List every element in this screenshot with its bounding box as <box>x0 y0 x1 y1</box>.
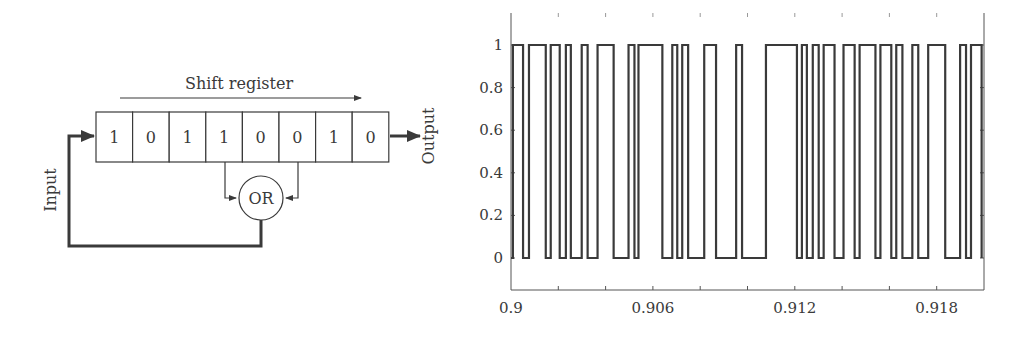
register-cell-value: 1 <box>329 128 339 147</box>
register-cell-3: 1 <box>169 112 206 162</box>
or-gate-label: OR <box>248 189 274 208</box>
figure: Shift register 10110010 Output OR Input … <box>0 0 1028 337</box>
y-tick-label: 0.6 <box>479 121 503 139</box>
output-waveform-chart: 0.90.9060.9120.91800.20.40.60.81 <box>479 13 984 317</box>
output-label: Output <box>419 107 438 164</box>
register-cell-value: 0 <box>146 128 156 147</box>
shift-register-title: Shift register <box>185 74 293 93</box>
or-gate: OR <box>239 176 283 220</box>
register-cell-value: 0 <box>292 128 302 147</box>
register-cell-value: 0 <box>365 128 375 147</box>
y-tick-label: 0 <box>493 249 503 267</box>
tap-line-cell-6 <box>286 162 298 198</box>
shift-register-diagram: Shift register 10110010 Output OR Input <box>41 74 438 246</box>
y-tick-label: 0.4 <box>479 164 503 182</box>
y-tick-label: 0.2 <box>479 206 503 224</box>
x-tick-label: 0.912 <box>773 299 816 317</box>
tap-line-cell-4 <box>225 162 236 198</box>
x-tick-label: 0.9 <box>499 299 523 317</box>
register-cell-4: 1 <box>206 112 243 162</box>
register-cell-1: 1 <box>96 112 133 162</box>
x-tick-label: 0.906 <box>631 299 674 317</box>
register-cell-value: 0 <box>256 128 266 147</box>
y-tick-label: 1 <box>493 36 503 54</box>
register-cell-8: 0 <box>352 112 389 162</box>
register-cell-value: 1 <box>109 128 119 147</box>
waveform-line <box>511 45 982 258</box>
register-cell-value: 1 <box>219 128 229 147</box>
x-tick-label: 0.918 <box>915 299 958 317</box>
register-cells: 10110010 <box>96 112 389 162</box>
register-cell-7: 1 <box>316 112 353 162</box>
register-cell-2: 0 <box>133 112 170 162</box>
input-label: Input <box>41 168 60 212</box>
register-cell-5: 0 <box>242 112 279 162</box>
y-tick-label: 0.8 <box>479 79 503 97</box>
register-cell-value: 1 <box>182 128 192 147</box>
register-cell-6: 0 <box>279 112 316 162</box>
